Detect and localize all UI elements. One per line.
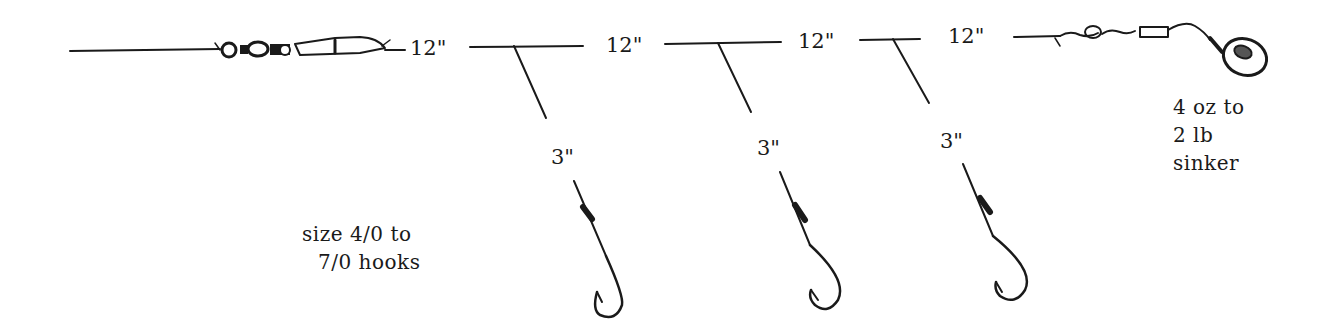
hooks-note-line1: size 4/0 to: [302, 220, 420, 248]
rig-diagram: 12" 12" 12" 12" 3" 3" 3" size 4/0 to 7/0…: [0, 0, 1343, 334]
sinker-note-line3: sinker: [1173, 149, 1245, 177]
hooks-note-line2: 7/0 hooks: [302, 248, 420, 276]
sinker-note-line1: 4 oz to: [1173, 93, 1245, 121]
main-line-segment-2: [665, 42, 781, 44]
dropper-2-upper: [718, 43, 751, 112]
segment-length-label-4: 12": [948, 26, 984, 47]
dropper-length-label-2: 3": [757, 138, 780, 159]
rig-drawing: [0, 0, 1343, 334]
hook-1-icon: [574, 181, 622, 317]
sinker-note-line2: 2 lb: [1173, 121, 1245, 149]
sinker-icon: [1055, 24, 1272, 82]
dropper-3-upper: [893, 39, 929, 103]
hook-3-icon: [963, 164, 1027, 300]
segment-length-label-3: 12": [798, 31, 834, 52]
main-line-segment-1: [470, 46, 583, 47]
dropper-length-label-3: 3": [940, 131, 963, 152]
sinker-note: 4 oz to 2 lb sinker: [1173, 93, 1245, 177]
dropper-1-upper: [514, 46, 546, 118]
segment-length-label-2: 12": [606, 35, 642, 56]
swivel-icon: [215, 37, 390, 57]
main-line-segment-4: [1014, 36, 1060, 37]
main-line-segment-3: [860, 39, 920, 40]
hooks-note: size 4/0 to 7/0 hooks: [302, 220, 420, 276]
segment-length-label-1: 12": [410, 38, 446, 59]
main-line-lead: [70, 49, 220, 51]
dropper-length-label-1: 3": [551, 147, 574, 168]
hook-2-icon: [780, 172, 840, 309]
